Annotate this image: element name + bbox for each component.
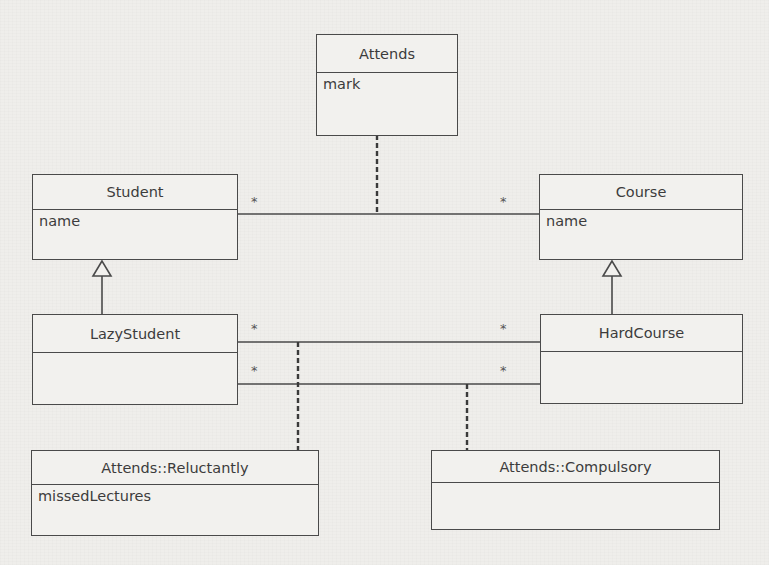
- multiplicity-course-end: *: [500, 195, 507, 208]
- class-lazystudent: LazyStudent: [32, 314, 238, 405]
- class-hardcourse: HardCourse: [540, 314, 743, 404]
- class-name: Attends::Compulsory: [432, 451, 719, 483]
- class-attends-reluctantly: Attends::Reluctantly missedLectures: [31, 450, 319, 536]
- class-name: Course: [540, 175, 742, 210]
- class-attribute: missedLectures: [32, 485, 318, 507]
- multiplicity-hardcourse-end-1: *: [500, 322, 507, 335]
- class-attends-compulsory: Attends::Compulsory: [431, 450, 720, 530]
- class-attribute: name: [540, 210, 742, 232]
- multiplicity-hardcourse-end-2: *: [500, 364, 507, 377]
- class-name: Attends: [317, 35, 457, 73]
- class-name: Attends::Reluctantly: [32, 451, 318, 485]
- class-attribute: name: [33, 210, 237, 232]
- class-name: LazyStudent: [33, 315, 237, 353]
- class-student: Student name: [32, 174, 238, 260]
- multiplicity-lazystudent-end-2: *: [251, 364, 258, 377]
- class-attribute: mark: [317, 73, 457, 95]
- class-attends: Attends mark: [316, 34, 458, 136]
- generalization-arrow-student-icon: [93, 261, 111, 276]
- multiplicity-lazystudent-end-1: *: [251, 322, 258, 335]
- class-course: Course name: [539, 174, 743, 260]
- class-name: HardCourse: [541, 315, 742, 352]
- multiplicity-student-end: *: [251, 195, 258, 208]
- generalization-arrow-course-icon: [603, 261, 621, 276]
- class-name: Student: [33, 175, 237, 210]
